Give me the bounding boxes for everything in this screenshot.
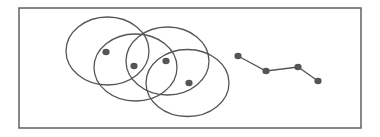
chain-point-3: [294, 64, 301, 70]
diagram-frame: [19, 8, 361, 128]
cluster-point-4: [185, 80, 192, 86]
diagram-canvas: [0, 0, 380, 137]
chain-line: [238, 56, 318, 81]
cluster-points-group: [102, 49, 192, 86]
chain-point-2: [262, 68, 269, 74]
cluster-point-1: [102, 49, 109, 55]
cluster-point-2: [130, 63, 137, 69]
cluster-point-3: [162, 58, 169, 64]
connected-chain-group: [234, 53, 321, 84]
chain-point-4: [314, 78, 321, 84]
chain-point-1: [234, 53, 241, 59]
overlapping-circles-group: [66, 17, 229, 117]
